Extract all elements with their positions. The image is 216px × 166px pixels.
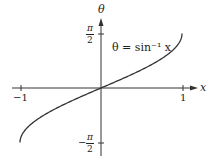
y-axis-arrow-icon (99, 18, 104, 26)
x-tick-label-pos-one: 1 (180, 93, 186, 103)
function-label: θ = sin⁻¹ x (112, 42, 171, 53)
x-axis-label: x (200, 82, 206, 93)
x-tick-label-neg-one: −1 (13, 93, 28, 103)
x-axis-arrow-icon (190, 86, 198, 91)
y-axis-label: θ (98, 4, 105, 15)
y-tick-label-neg-pi-half: π 2 (86, 133, 94, 154)
y-tick-label-pi-half: π 2 (86, 24, 94, 45)
arcsin-plot (0, 0, 216, 166)
